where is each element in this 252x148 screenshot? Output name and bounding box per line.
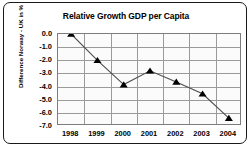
y-axis-tick-label: -2.0 [8,55,52,64]
y-axis-tick-label: -7.0 [8,121,52,130]
y-axis-tick-label: -6.0 [8,108,52,117]
data-point-marker [199,90,207,96]
data-series-line [58,34,241,125]
plot-area [57,33,241,125]
y-axis-tick-label: -3.0 [8,68,52,77]
data-point-marker [172,79,180,85]
x-axis-tick-label: 2004 [208,129,247,138]
data-point-marker [146,67,154,73]
y-axis-tick-label: -5.0 [8,95,52,104]
chart-title: Relative Growth GDP per Capita [4,11,247,21]
chart-container: Relative Growth GDP per Capita Differenc… [3,2,247,144]
y-axis-tick-label: -1.0 [8,42,52,51]
y-axis-tick-label: 0.0 [8,29,52,38]
data-point-marker [67,34,75,37]
y-axis-tick-label: -4.0 [8,82,52,91]
series-polyline [71,34,229,118]
